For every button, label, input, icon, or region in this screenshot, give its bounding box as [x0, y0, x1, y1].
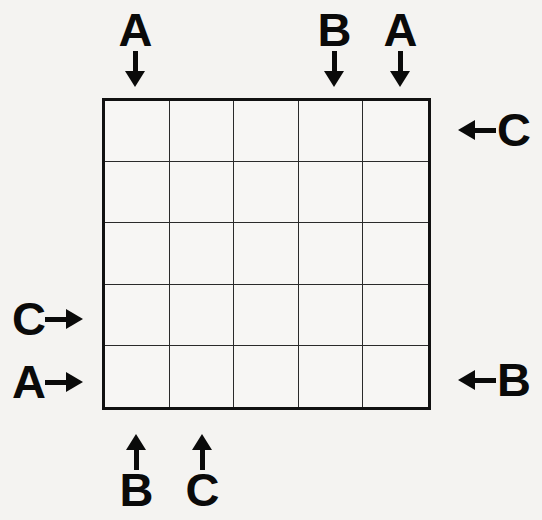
grid-cell[interactable] — [170, 223, 235, 284]
clue-top-1[interactable]: A — [109, 12, 161, 87]
clue-letter: B — [318, 12, 351, 49]
grid-cell[interactable] — [105, 346, 170, 407]
clue-left-5[interactable]: A — [12, 356, 83, 408]
grid-cell[interactable] — [234, 285, 299, 346]
left-arrow-icon — [458, 370, 496, 390]
clue-letter: A — [384, 12, 417, 49]
clue-letter: A — [119, 12, 152, 49]
grid-cell[interactable] — [170, 101, 235, 162]
grid-cell[interactable] — [299, 223, 364, 284]
clue-bottom-1[interactable]: B — [110, 434, 162, 509]
grid-cell[interactable] — [234, 101, 299, 162]
clue-top-4[interactable]: B — [308, 12, 360, 87]
grid-cell[interactable] — [363, 285, 428, 346]
grid-cell[interactable] — [105, 101, 170, 162]
grid-cell[interactable] — [170, 285, 235, 346]
right-arrow-icon — [45, 372, 83, 392]
grid-cell[interactable] — [363, 101, 428, 162]
right-arrow-icon — [45, 309, 83, 329]
grid-cell[interactable] — [299, 162, 364, 223]
clue-letter: A — [12, 364, 45, 401]
left-arrow-icon — [458, 120, 496, 140]
clue-left-4[interactable]: C — [12, 293, 83, 345]
up-arrow-icon — [126, 434, 146, 470]
clue-bottom-2[interactable]: C — [176, 434, 228, 509]
clue-letter: B — [120, 472, 153, 509]
down-arrow-icon — [125, 51, 145, 87]
clue-letter: C — [12, 301, 45, 338]
clue-right-5[interactable]: B — [458, 354, 530, 406]
grid-cell[interactable] — [234, 346, 299, 407]
up-arrow-icon — [192, 434, 212, 470]
grid-cell[interactable] — [234, 223, 299, 284]
grid-cell[interactable] — [234, 162, 299, 223]
clue-right-1[interactable]: C — [458, 104, 530, 156]
down-arrow-icon — [390, 51, 410, 87]
grid-cell[interactable] — [363, 223, 428, 284]
grid-cell[interactable] — [363, 346, 428, 407]
grid-cell[interactable] — [170, 346, 235, 407]
clue-letter: C — [186, 472, 219, 509]
grid-cell[interactable] — [363, 162, 428, 223]
grid-cell[interactable] — [299, 346, 364, 407]
grid-cell[interactable] — [105, 223, 170, 284]
down-arrow-icon — [324, 51, 344, 87]
clue-letter: C — [497, 112, 530, 149]
grid-cell[interactable] — [299, 285, 364, 346]
puzzle-grid[interactable] — [102, 98, 431, 410]
grid-cell[interactable] — [105, 285, 170, 346]
clue-top-5[interactable]: A — [374, 12, 426, 87]
puzzle-canvas: A B A — [0, 0, 542, 520]
grid-cell[interactable] — [170, 162, 235, 223]
grid-cell[interactable] — [105, 162, 170, 223]
grid-cell[interactable] — [299, 101, 364, 162]
clue-letter: B — [497, 362, 530, 399]
